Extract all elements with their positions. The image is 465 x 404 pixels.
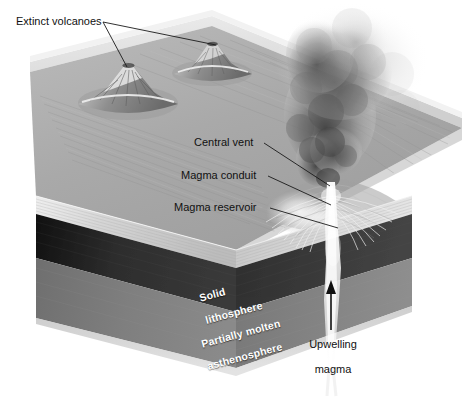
label-extinct-volcanoes: Extinct volcanoes [16,15,102,27]
label-central-vent: Central vent [194,136,253,148]
label-upwelling-magma: Upwelling magma [303,326,357,375]
label-upwelling-magma-line1: Upwelling [309,338,357,350]
label-upwelling-magma-line2: magma [315,363,352,375]
label-solid-lithosphere-line1: Solid [198,285,227,303]
label-magma-conduit: Magma conduit [181,169,256,181]
label-magma-reservoir: Magma reservoir [174,201,257,213]
diagram-canvas: Extinct volcanoes Central vent Magma con… [0,0,465,404]
